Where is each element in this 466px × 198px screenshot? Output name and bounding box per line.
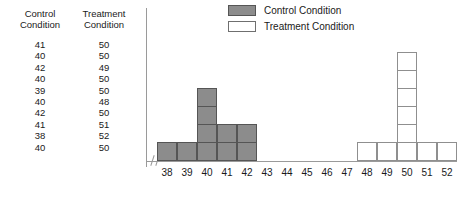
histogram-column [377,143,397,161]
x-tick-label: 42 [237,166,257,180]
legend-swatch-treatment-icon [228,21,256,32]
histogram-column [397,53,417,161]
cell-treatment-value: 52 [72,130,136,141]
x-tick-label: 38 [157,166,177,180]
histogram-column [217,125,237,161]
table-row: 4050 [8,73,136,84]
legend-label-control: Control Condition [264,5,341,16]
x-axis-tick-labels: 383940414243444546474849505152 [157,166,457,182]
histogram-column [357,143,377,161]
histogram-cell [217,142,237,161]
legend-swatch-control-icon [228,5,256,16]
x-tick-label: 51 [417,166,437,180]
table-row: 4250 [8,107,136,118]
cell-treatment-value: 50 [72,73,136,84]
cell-control-value: 40 [8,96,72,107]
histogram-column [197,89,217,161]
x-tick-label: 39 [177,166,197,180]
x-tick-label: 47 [337,166,357,180]
x-tick-label: 48 [357,166,377,180]
histogram-cell [157,142,177,161]
cell-control-value: 42 [8,62,72,73]
table-row: 4050 [8,142,136,153]
cell-treatment-value: 49 [72,62,136,73]
histogram-cell [397,70,417,89]
cell-treatment-value: 50 [72,142,136,153]
cell-treatment-value: 50 [72,50,136,61]
histogram-cell [397,52,417,71]
cell-control-value: 39 [8,85,72,96]
x-tick-label: 40 [197,166,217,180]
x-tick-label: 43 [257,166,277,180]
histogram-column [177,143,197,161]
cell-control-value: 41 [8,119,72,130]
cell-treatment-value: 48 [72,96,136,107]
column-header-control: Control Condition [8,8,72,39]
x-tick-label: 44 [277,166,297,180]
histogram-cell [417,142,437,161]
cell-control-value: 42 [8,107,72,118]
cell-control-value: 40 [8,142,72,153]
column-header-treatment: Treatment Condition [72,8,136,39]
legend-item-control: Control Condition [228,5,354,16]
histogram-cell [397,88,417,107]
table-header-row: Control Condition Treatment Condition [8,8,136,39]
histogram-cell [237,142,257,161]
x-tick-label: 50 [397,166,417,180]
table-row: 3852 [8,130,136,141]
histogram-cell [217,124,237,143]
cell-treatment-value: 50 [72,85,136,96]
chart-legend: Control Condition Treatment Condition [228,5,354,32]
cell-treatment-value: 50 [72,39,136,50]
histogram-cell [437,142,457,161]
legend-item-treatment: Treatment Condition [228,21,354,32]
table-body: 4150405042494050395040484250415138524050 [8,39,136,153]
cell-control-value: 41 [8,39,72,50]
y-axis-line [146,8,147,167]
cell-control-value: 40 [8,73,72,84]
table-row: 3950 [8,85,136,96]
x-tick-label: 45 [297,166,317,180]
histogram-cell [177,142,197,161]
x-tick-label: 52 [437,166,457,180]
table-row: 4151 [8,119,136,130]
histogram-column [437,143,457,161]
histogram-cell [397,106,417,125]
condition-values-table: Control Condition Treatment Condition 41… [8,8,136,153]
cell-treatment-value: 50 [72,107,136,118]
histogram-cell [237,124,257,143]
x-tick-label: 41 [217,166,237,180]
cell-control-value: 40 [8,50,72,61]
table-row: 4048 [8,96,136,107]
cell-treatment-value: 51 [72,119,136,130]
table-row: 4150 [8,39,136,50]
histogram-column [157,143,177,161]
histogram-column [417,143,437,161]
histogram-cell [357,142,377,161]
histogram-cell [197,124,217,143]
x-axis-line [146,161,457,162]
data-table: Control Condition Treatment Condition 41… [8,8,136,190]
histogram-cell [197,142,217,161]
x-tick-label: 46 [317,166,337,180]
histogram-cell [197,88,217,107]
histogram-cell [197,106,217,125]
legend-label-treatment: Treatment Condition [264,21,354,32]
histogram-cell [397,142,417,161]
histogram-column [237,125,257,161]
histogram-chart: 383940414243444546474849505152 Control C… [140,0,466,198]
cell-control-value: 38 [8,130,72,141]
histogram-cell [397,124,417,143]
table-row: 4050 [8,50,136,61]
x-tick-label: 49 [377,166,397,180]
table-row: 4249 [8,62,136,73]
histogram-cell [377,142,397,161]
